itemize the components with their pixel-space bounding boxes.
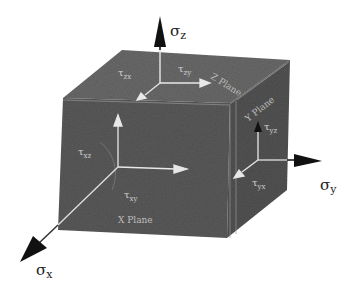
front-plane-label: X Plane [118,215,153,225]
stress-cube-diagram: Z Plane Y Plane X Plane τzx τzy τxz τxy … [0,0,353,293]
sigma-z-label: σz [170,22,186,42]
cube [58,50,290,238]
arrow-head-icon [154,16,166,47]
sigma-x-label: σx [36,261,53,281]
arrow-head-icon [294,154,322,167]
sigma-y-label: σy [320,176,337,196]
